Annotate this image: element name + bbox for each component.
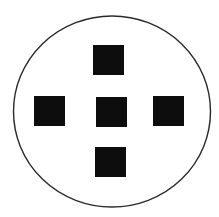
diagram-canvas	[0, 0, 219, 217]
circle-with-five-squares-diagram	[0, 0, 219, 217]
square-top	[93, 45, 124, 75]
square-center	[96, 97, 127, 127]
square-right	[153, 96, 184, 126]
square-bottom	[95, 147, 126, 177]
square-left	[34, 96, 65, 126]
